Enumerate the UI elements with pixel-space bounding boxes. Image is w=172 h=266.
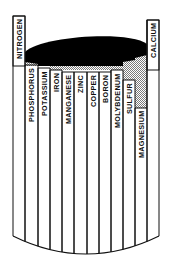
- stave-label-manganese: MANGANESE: [65, 75, 72, 124]
- stave-label-copper: COPPER: [90, 75, 97, 107]
- stave-label-potassium: POTASSIUM: [41, 71, 48, 116]
- stave-label-molybdenum: MOLYBDENUM: [114, 73, 121, 128]
- stave-label-phosphorus: PHOSPHORUS: [28, 68, 35, 122]
- stave-label-zinc: ZINC: [77, 75, 84, 93]
- stave-label-magnesium: MAGNESIUM: [138, 111, 145, 158]
- barrel-bottom: [13, 236, 159, 254]
- stave-label-calcium: CALCIUM: [150, 23, 157, 58]
- stave-label-boron: BORON: [102, 75, 109, 103]
- stave-label-sulfur: SULFUR: [126, 83, 133, 114]
- nutrient-barrel-diagram: [0, 0, 172, 266]
- stave-label-nitrogen: NITROGEN: [16, 19, 23, 59]
- stave-label-iron: IRON: [53, 73, 60, 92]
